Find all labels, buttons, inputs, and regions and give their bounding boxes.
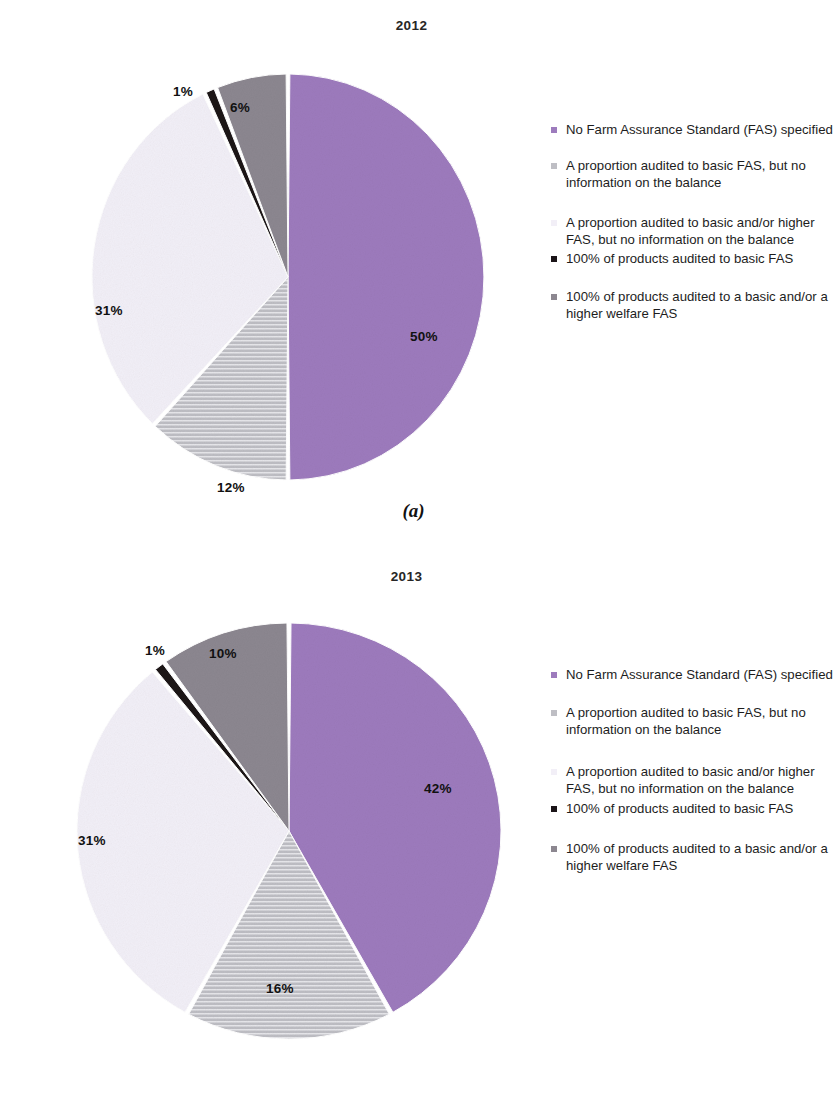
slice-label-basic-fas-partial: 16% — [266, 981, 294, 996]
legend-marker-100-basic-higher-icon — [551, 294, 557, 300]
legend-label-no-fas: No Farm Assurance Standard (FAS) specifi… — [566, 667, 834, 683]
legend-item-basic-fas-partial: A proportion audited to basic FAS, but n… — [549, 705, 834, 738]
pie-svg-2012 — [88, 72, 508, 482]
slice-label-basic-higher-partial: 31% — [78, 833, 106, 848]
legend-marker-basic-higher-partial-icon — [551, 769, 557, 775]
legend-marker-basic-higher-partial-icon — [551, 220, 557, 226]
legend-label-basic-fas-partial: A proportion audited to basic FAS, but n… — [566, 705, 834, 738]
legend-marker-basic-fas-partial-icon — [551, 710, 557, 716]
legend-label-basic-fas-partial: A proportion audited to basic FAS, but n… — [566, 158, 834, 191]
legend-label-basic-higher-partial: A proportion audited to basic and/or hig… — [566, 764, 834, 797]
legend-item-basic-higher-partial: A proportion audited to basic and/or hig… — [549, 764, 834, 797]
legend-marker-basic-fas-partial-icon — [551, 163, 557, 169]
slice-label-basic-fas-partial: 12% — [217, 480, 245, 495]
slice-label-basic-higher-partial: 31% — [95, 303, 123, 318]
pie-svg-2013 — [72, 621, 512, 1041]
legend-label-100-basic: 100% of products audited to basic FAS — [566, 251, 834, 267]
slice-label-no-fas: 42% — [424, 781, 452, 796]
legend-label-no-fas: No Farm Assurance Standard (FAS) specifi… — [566, 122, 834, 138]
figure-a-2012: 2012 50% 12% 31 — [0, 0, 834, 551]
slice-label-no-fas: 50% — [410, 329, 438, 344]
legend-marker-100-basic-icon — [551, 806, 557, 812]
slice-label-100-basic-higher: 10% — [209, 646, 237, 661]
chart-title-2013: 2013 — [0, 569, 834, 584]
legend-item-100-basic-higher: 100% of products audited to a basic and/… — [549, 289, 834, 322]
legend-label-100-basic-higher: 100% of products audited to a basic and/… — [566, 841, 834, 874]
legend-item-100-basic: 100% of products audited to basic FAS — [549, 801, 834, 817]
legend-label-basic-higher-partial: A proportion audited to basic and/or hig… — [566, 215, 834, 248]
legend-item-no-fas: No Farm Assurance Standard (FAS) specifi… — [549, 667, 834, 683]
legend-item-100-basic: 100% of products audited to basic FAS — [549, 251, 834, 267]
legend-2013: No Farm Assurance Standard (FAS) specifi… — [549, 667, 834, 874]
legend-item-basic-higher-partial: A proportion audited to basic and/or hig… — [549, 215, 834, 248]
legend-item-no-fas: No Farm Assurance Standard (FAS) specifi… — [549, 122, 834, 138]
legend-2012: No Farm Assurance Standard (FAS) specifi… — [549, 122, 834, 322]
legend-item-basic-fas-partial: A proportion audited to basic FAS, but n… — [549, 158, 834, 191]
legend-marker-no-fas-icon — [551, 127, 557, 133]
legend-marker-no-fas-icon — [551, 672, 557, 678]
chart-title-2012: 2012 — [0, 18, 834, 33]
pie-chart-2013: 42% 16% 31% 1% 10% — [72, 621, 512, 1041]
legend-label-100-basic-higher: 100% of products audited to a basic and/… — [566, 289, 834, 322]
pie-slice — [288, 74, 484, 480]
legend-marker-100-basic-higher-icon — [551, 846, 557, 852]
slice-label-100-basic: 1% — [145, 643, 165, 658]
legend-marker-100-basic-icon — [551, 256, 557, 262]
slice-label-100-basic-higher: 6% — [230, 100, 250, 115]
figure-b-2013: 2013 42% 16% 31 — [0, 551, 834, 1102]
slice-label-100-basic: 1% — [173, 84, 193, 99]
figure-caption-a: (a) — [0, 500, 834, 522]
legend-label-100-basic: 100% of products audited to basic FAS — [566, 801, 834, 817]
legend-item-100-basic-higher: 100% of products audited to a basic and/… — [549, 841, 834, 874]
pie-chart-2012: 50% 12% 31% 1% 6% — [88, 72, 508, 482]
